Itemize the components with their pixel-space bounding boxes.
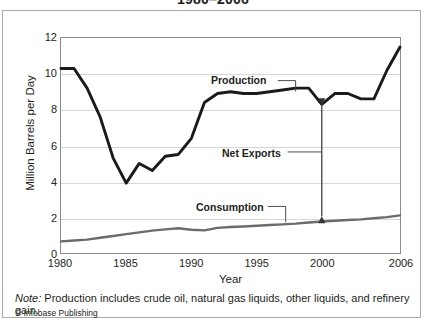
series-line-production (61, 47, 400, 183)
x-tick-1995: 1995 (244, 257, 268, 269)
y-tick-6: 6 (31, 140, 57, 152)
plot-inner: Production Net Exports Consumption (61, 38, 400, 253)
y-axis-tick-labels: 024681012 (29, 37, 57, 254)
x-tick-1985: 1985 (113, 257, 137, 269)
plot-area: Production Net Exports Consumption (60, 37, 401, 254)
x-tick-2000: 2000 (310, 257, 334, 269)
x-axis-title: Year (60, 273, 401, 285)
y-tick-4: 4 (31, 176, 57, 188)
net-exports-arrowhead-down (318, 216, 325, 223)
production-label: Production (211, 74, 266, 86)
y-tick-2: 2 (31, 212, 57, 224)
x-tick-2006: 2006 (389, 257, 413, 269)
x-axis-tick-labels: 198019851990199520002006 (60, 257, 401, 273)
x-tick-1980: 1980 (48, 257, 72, 269)
y-tick-12: 12 (31, 31, 57, 43)
y-tick-8: 8 (31, 103, 57, 115)
net-exports-label: Net Exports (222, 147, 281, 159)
y-tick-10: 10 (31, 67, 57, 79)
consumption-label: Consumption (196, 201, 264, 213)
chart-title: 1980–2006 (0, 0, 426, 9)
credit-line: © Infobase Publishing (15, 308, 98, 318)
figure-card: Million Barrels per Day 024681012 Produc… (2, 10, 421, 318)
note-label: Note: (15, 292, 41, 304)
series-line-consumption (61, 215, 400, 241)
x-tick-1990: 1990 (179, 257, 203, 269)
series-layer (61, 38, 400, 253)
